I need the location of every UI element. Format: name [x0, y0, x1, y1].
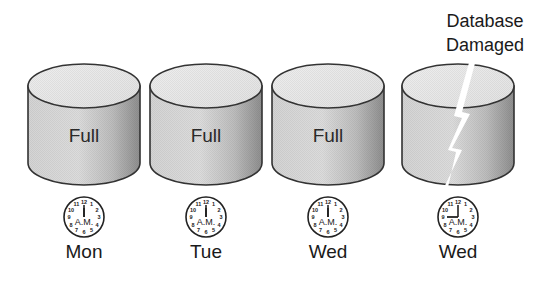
svg-text:5: 5 [464, 227, 467, 233]
day-label: Mon [66, 241, 103, 262]
svg-text:12: 12 [455, 199, 461, 205]
svg-text:3: 3 [341, 214, 344, 220]
svg-text:5: 5 [90, 227, 93, 233]
clock-icon: 121234567891011A.M. [308, 197, 348, 237]
clock-icon: 121234567891011A.M. [186, 197, 226, 237]
svg-text:8: 8 [313, 222, 316, 228]
svg-text:9: 9 [67, 214, 70, 220]
damage-label-line1: Database [446, 11, 523, 31]
database-full-backup: Full [272, 64, 384, 185]
svg-text:3: 3 [471, 214, 474, 220]
svg-text:10: 10 [442, 207, 448, 213]
svg-text:3: 3 [97, 214, 100, 220]
svg-text:6: 6 [82, 229, 85, 235]
svg-text:11: 11 [74, 201, 80, 207]
svg-text:1: 1 [90, 201, 93, 207]
svg-text:7: 7 [449, 227, 452, 233]
svg-text:A.M.: A.M. [197, 217, 216, 227]
svg-text:12: 12 [81, 199, 87, 205]
database-full-backup: Full [28, 64, 140, 185]
damage-label-line2: Damaged [446, 35, 524, 55]
svg-text:6: 6 [456, 229, 459, 235]
backup-diagram: FullFullFull 121234567891011A.M.12123456… [0, 0, 537, 286]
backup-type-label: Full [313, 125, 344, 146]
svg-text:9: 9 [441, 214, 444, 220]
svg-text:2: 2 [469, 207, 472, 213]
backup-type-label: Full [69, 125, 100, 146]
database-full-backup: Full [150, 64, 262, 185]
svg-text:1: 1 [464, 201, 467, 207]
svg-text:10: 10 [68, 207, 74, 213]
svg-text:7: 7 [197, 227, 200, 233]
svg-text:A.M.: A.M. [75, 217, 94, 227]
svg-text:8: 8 [191, 222, 194, 228]
database-damaged [402, 52, 514, 196]
svg-text:11: 11 [448, 201, 454, 207]
svg-text:8: 8 [69, 222, 72, 228]
day-label: Wed [439, 241, 478, 262]
svg-text:2: 2 [339, 207, 342, 213]
svg-text:7: 7 [319, 227, 322, 233]
svg-text:11: 11 [196, 201, 202, 207]
svg-text:10: 10 [190, 207, 196, 213]
clock-icon: 121234567891011A.M. [64, 197, 104, 237]
day-label: Tue [190, 241, 222, 262]
svg-text:10: 10 [312, 207, 318, 213]
svg-text:6: 6 [204, 229, 207, 235]
svg-text:2: 2 [95, 207, 98, 213]
svg-text:A.M.: A.M. [449, 217, 468, 227]
svg-text:5: 5 [334, 227, 337, 233]
svg-text:7: 7 [75, 227, 78, 233]
svg-text:1: 1 [334, 201, 337, 207]
svg-text:12: 12 [325, 199, 331, 205]
svg-text:12: 12 [203, 199, 209, 205]
svg-text:9: 9 [189, 214, 192, 220]
backup-type-label: Full [191, 125, 222, 146]
svg-text:11: 11 [318, 201, 324, 207]
svg-text:A.M.: A.M. [319, 217, 338, 227]
svg-text:9: 9 [311, 214, 314, 220]
svg-text:2: 2 [217, 207, 220, 213]
day-label: Wed [309, 241, 348, 262]
svg-text:3: 3 [219, 214, 222, 220]
svg-text:6: 6 [326, 229, 329, 235]
clock-icon: 121234567891011A.M. [438, 197, 478, 237]
svg-text:5: 5 [212, 227, 215, 233]
svg-text:8: 8 [443, 222, 446, 228]
svg-text:1: 1 [212, 201, 215, 207]
